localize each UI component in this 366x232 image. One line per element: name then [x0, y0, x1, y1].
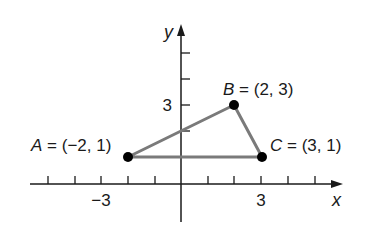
point-a-label: A = (−2, 1): [30, 136, 111, 155]
point-b-label: B = (2, 3): [223, 80, 293, 99]
point-a-coords: = (−2, 1): [47, 136, 111, 155]
point-b-name: B: [223, 80, 234, 99]
x-tick-label-neg3: −3: [91, 191, 110, 210]
point-a: [123, 152, 133, 162]
x-tick-label-3: 3: [256, 191, 265, 210]
point-b-coords: = (2, 3): [239, 80, 293, 99]
x-axis-arrow-icon: [331, 180, 343, 188]
y-ticks: [181, 53, 190, 157]
point-a-name: A: [30, 136, 42, 155]
coordinate-plane: −3 3 3 x y A = (−2, 1) B = (2, 3) C = (3…: [0, 0, 366, 232]
x-axis-label: x: [331, 190, 342, 210]
y-tick-label-3: 3: [163, 96, 172, 115]
point-c-coords: = (3, 1): [287, 136, 341, 155]
point-b: [229, 100, 239, 110]
point-c: [257, 152, 267, 162]
y-axis-label: y: [162, 22, 174, 42]
triangle-abc: [128, 105, 262, 157]
point-c-name: C: [270, 136, 283, 155]
y-axis-arrow-icon: [177, 24, 185, 36]
point-c-label: C = (3, 1): [270, 136, 341, 155]
